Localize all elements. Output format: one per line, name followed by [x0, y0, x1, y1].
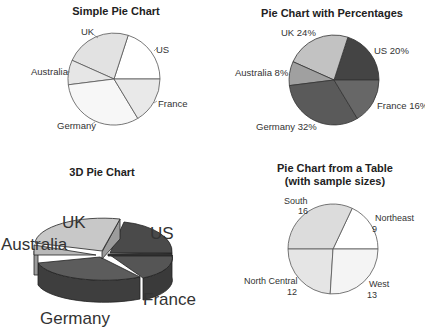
label-west: West — [369, 279, 390, 289]
label-germany: Germany — [57, 120, 96, 131]
threed-pie-chart: UK US Australia France Germany — [0, 167, 212, 334]
label-australia: Australia — [1, 235, 68, 254]
simple-pie-panel: Simple Pie Chart UK US Australia France … — [0, 0, 212, 167]
slice-us-side — [108, 253, 172, 256]
table-pie-panel: Pie Chart from a Table (with sample size… — [212, 167, 425, 334]
table-pie-chart: South 16 Northeast 9 North Central 12 We… — [212, 167, 425, 334]
label-australia: Australia 8% — [235, 67, 289, 78]
label-uk: UK 24% — [281, 27, 316, 38]
label-northeast: Northeast — [375, 213, 415, 223]
label-france: France — [158, 98, 188, 109]
label-us: US 20% — [374, 45, 409, 56]
label-france: France 16% — [377, 100, 425, 111]
threed-pie-panel: 3D Pie Chart UK US Australia France Germ… — [0, 167, 212, 334]
label-south: South — [284, 196, 308, 206]
label-south-n: 16 — [298, 206, 308, 216]
label-uk: UK — [62, 213, 86, 232]
percent-pie-panel: Pie Chart with Percentages UK 24% US 20%… — [212, 0, 425, 167]
label-northeast-n: 9 — [372, 224, 377, 234]
label-us: US — [156, 44, 169, 55]
label-uk: UK — [81, 26, 95, 37]
simple-pie-chart: UK US Australia France Germany — [0, 0, 212, 140]
label-germany: Germany — [40, 309, 110, 328]
percent-pie-chart: UK 24% US 20% Australia 8% France 16% Ge… — [212, 0, 425, 140]
label-germany: Germany 32% — [256, 121, 317, 132]
label-northcentral: North Central — [244, 276, 298, 286]
label-us: US — [150, 224, 174, 243]
label-france: France — [143, 290, 196, 309]
label-northcentral-n: 12 — [287, 287, 297, 297]
label-west-n: 13 — [367, 290, 377, 300]
label-australia: Australia — [31, 66, 69, 77]
